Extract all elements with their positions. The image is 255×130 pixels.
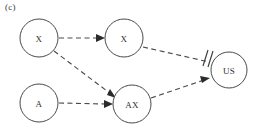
- edge-x-to-ax: [54, 51, 116, 98]
- edge-x-to-us-line: [143, 47, 209, 62]
- node-x-mediator-label: X: [121, 34, 128, 44]
- causal-diagram-figure: (c) X: [0, 0, 255, 130]
- edge-x-to-ax-line: [54, 51, 111, 94]
- node-x-exposure-label: X: [36, 34, 43, 44]
- edge-a-to-ax-line: [59, 103, 107, 104]
- edge-ax-to-us-arrowhead: [200, 76, 210, 83]
- edge-ax-to-us-line: [151, 80, 204, 98]
- node-x-mediator[interactable]: X: [105, 19, 143, 57]
- node-us-outcome[interactable]: US: [211, 52, 247, 88]
- node-a-baseline-label: A: [36, 99, 43, 109]
- edge-x-to-x-arrowhead: [96, 34, 105, 42]
- node-x-exposure[interactable]: X: [20, 19, 58, 57]
- edge-x-to-us: [143, 47, 213, 67]
- node-a-baseline[interactable]: A: [20, 84, 58, 122]
- edge-ax-to-us: [151, 76, 210, 98]
- edge-x-to-x: [59, 34, 105, 42]
- graph-canvas: X X A AX US: [0, 0, 255, 130]
- edge-a-to-ax: [59, 100, 113, 108]
- node-ax-interaction[interactable]: AX: [113, 85, 151, 123]
- edge-x-to-us-cut-slash-1: [203, 50, 208, 66]
- node-us-outcome-label: US: [223, 66, 235, 76]
- edge-a-to-ax-arrowhead: [104, 100, 113, 108]
- node-ax-interaction-label: AX: [125, 100, 139, 110]
